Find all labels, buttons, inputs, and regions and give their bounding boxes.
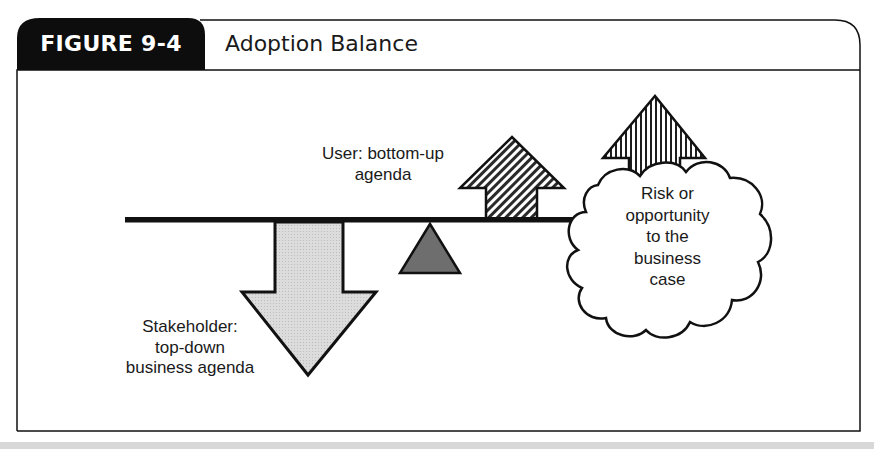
label-line: Stakeholder:: [90, 317, 290, 338]
label-line: to the: [585, 226, 750, 248]
label-line: business: [585, 248, 750, 270]
footer-divider-bar: [0, 442, 874, 449]
label-line: agenda: [288, 165, 478, 186]
label-line: Risk or: [585, 183, 750, 205]
stakeholder-agenda-label: Stakeholder: top-down business agenda: [90, 317, 290, 379]
label-line: case: [585, 269, 750, 291]
figure-number: FIGURE 9-4: [22, 24, 200, 64]
balance-beam: [125, 217, 590, 223]
fulcrum-triangle: [400, 224, 460, 273]
label-line: User: bottom-up: [288, 144, 478, 165]
figure-panel: FIGURE 9-4 Adoption Balance User: bottom…: [0, 0, 874, 449]
label-line: business agenda: [90, 358, 290, 379]
cloud-label: Risk or opportunity to the business case: [585, 183, 750, 291]
label-line: top-down: [90, 338, 290, 359]
figure-title: Adoption Balance: [225, 24, 418, 64]
user-agenda-label: User: bottom-up agenda: [288, 144, 478, 185]
label-line: opportunity: [585, 205, 750, 227]
